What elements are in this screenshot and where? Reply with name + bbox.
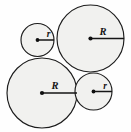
diagram-canvas: r R R r: [0, 0, 131, 132]
center-dot-bottom-left-large: [40, 91, 44, 95]
center-dot-top-left-small: [36, 38, 40, 42]
radius-label-top-right-large: R: [98, 26, 106, 37]
radius-label-bottom-right-small: r: [103, 81, 107, 91]
center-dot-top-right-large: [88, 36, 92, 40]
radius-label-top-left-small: r: [47, 29, 51, 39]
circle-packing-diagram: r R R r: [0, 0, 131, 132]
radius-label-bottom-left-large: R: [50, 80, 58, 91]
center-dot-bottom-right-small: [92, 90, 96, 94]
